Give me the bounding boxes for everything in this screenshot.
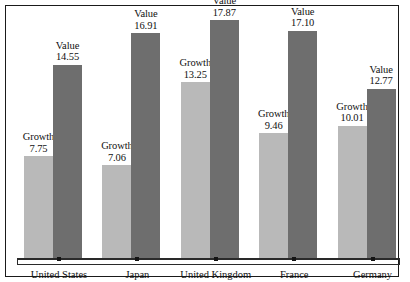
bar-value-germany (367, 89, 396, 260)
chart-screenshot: Growth7.75Value14.55Growth7.06Value16.91… (0, 0, 410, 282)
data-label-value-united-kingdom: Value17.87 (202, 0, 247, 18)
series-name: Value (202, 0, 247, 7)
plot-area: Growth7.75Value14.55Growth7.06Value16.91… (12, 12, 404, 260)
x-axis-line (17, 258, 400, 260)
x-axis-tick (57, 257, 61, 261)
bar-growth-germany (338, 126, 367, 260)
data-label-value-japan: Value16.91 (123, 8, 168, 31)
x-axis-label-united-kingdom: United Kingdom (180, 269, 251, 281)
bar-growth-japan (102, 165, 131, 260)
data-label-value-united-states: Value14.55 (45, 40, 90, 63)
series-value: 12.77 (359, 75, 404, 87)
series-value: 14.55 (45, 51, 90, 63)
bar-value-united-states (53, 65, 82, 260)
x-axis-tick (371, 257, 375, 261)
x-axis-label-japan: Japan (125, 269, 149, 281)
x-axis-label-france: France (280, 269, 309, 281)
x-axis-tick (135, 257, 139, 261)
bar-growth-france (259, 133, 288, 260)
x-axis-label-united-states: United States (31, 269, 87, 281)
series-name: Value (45, 40, 90, 52)
series-name: Value (123, 8, 168, 20)
x-axis-tick (214, 257, 218, 261)
series-value: 17.10 (280, 17, 325, 29)
series-name: Value (359, 64, 404, 76)
series-value: 17.87 (202, 7, 247, 19)
chart-frame: Growth7.75Value14.55Growth7.06Value16.91… (5, 5, 399, 277)
bar-value-japan (131, 33, 160, 260)
bar-growth-united-states (24, 156, 53, 260)
series-name: Value (280, 6, 325, 18)
bar-value-france (288, 31, 317, 260)
x-axis-label-germany: Germany (353, 269, 392, 281)
series-value: 16.91 (123, 20, 168, 32)
data-label-value-germany: Value12.77 (359, 64, 404, 87)
bar-growth-united-kingdom (181, 82, 210, 260)
data-label-value-france: Value17.10 (280, 6, 325, 29)
x-axis-tick (292, 257, 296, 261)
bar-value-united-kingdom (210, 20, 239, 260)
